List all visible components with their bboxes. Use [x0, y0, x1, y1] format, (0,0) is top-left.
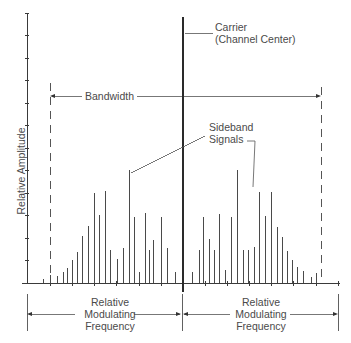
- arrowhead-icon: [176, 312, 181, 316]
- right-freq-line3: Frequency: [211, 320, 311, 332]
- bandwidth-label: Bandwidth: [85, 90, 134, 102]
- arrowhead-icon: [183, 312, 188, 316]
- right-freq-label: Relative Modulating Frequency: [211, 296, 311, 332]
- left-freq-label: Relative Modulating Frequency: [60, 296, 160, 332]
- left-freq-line1: Relative: [60, 296, 160, 308]
- sideband-lines: [43, 170, 316, 283]
- arrowhead-right-icon: [316, 94, 321, 98]
- arrowhead-icon: [27, 312, 32, 316]
- arrowhead-left-icon: [50, 94, 55, 98]
- right-freq-line2: Modulating: [211, 308, 311, 320]
- sideband-label-line2: Signals: [209, 133, 243, 145]
- left-freq-line2: Modulating: [60, 308, 160, 320]
- spectrum-diagram: [0, 0, 351, 343]
- sideband-leader-left: [131, 136, 205, 173]
- sideband-label-line1: Sideband: [209, 121, 253, 133]
- y-axis-label: Relative Amplitude: [15, 116, 27, 226]
- carrier-label-line1: Carrier: [215, 21, 247, 33]
- carrier-label-line2: (Channel Center): [215, 33, 296, 45]
- left-freq-line3: Frequency: [60, 320, 160, 332]
- right-freq-line1: Relative: [211, 296, 311, 308]
- sideband-leader-right: [247, 141, 255, 187]
- arrowhead-icon: [333, 312, 338, 316]
